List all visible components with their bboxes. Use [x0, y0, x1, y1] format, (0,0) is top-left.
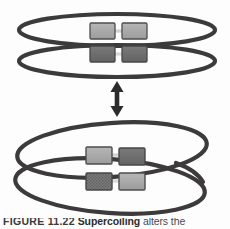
box-catenated-lower-left [86, 173, 112, 190]
box-lower-right [122, 46, 147, 62]
box-upper-left [90, 23, 115, 39]
figure-panel: FIGURE 11.22 Supercoiling alters the [0, 0, 230, 229]
box-catenated-lower-right [119, 173, 145, 190]
box-catenated-upper-right [119, 148, 145, 165]
figure-caption-body: alters [143, 218, 168, 227]
figure-caption-lead: Supercoiling [78, 218, 140, 227]
figure-caption: FIGURE 11.22 Supercoiling alters the [0, 218, 230, 229]
box-upper-right [122, 23, 147, 39]
box-lower-left [90, 46, 115, 62]
figure-number-label: FIGURE 11.22 [3, 218, 75, 227]
dna-catenation-diagram [0, 0, 230, 229]
figure-caption-trailing: the [171, 218, 185, 227]
box-catenated-upper-left [86, 147, 112, 164]
figure-caption-line: FIGURE 11.22 Supercoiling alters the [3, 218, 185, 228]
